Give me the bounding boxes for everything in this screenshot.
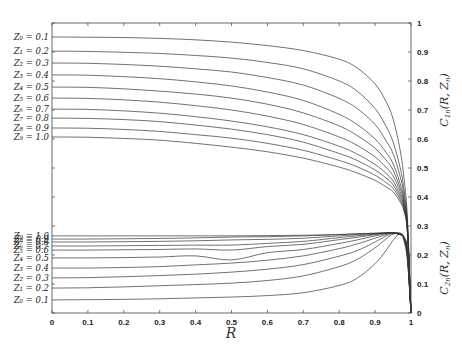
x-tick-label: 1 [409, 318, 414, 327]
z-label-upper-1: Z₁ = 0.2 [13, 46, 49, 56]
x-tick-label: 0.8 [334, 318, 346, 327]
c1n-curve-z6 [52, 109, 411, 313]
y-tick-label: 0.9 [417, 48, 429, 57]
c2n-sub: 2n [444, 277, 452, 287]
c1n-curve-z0 [52, 37, 411, 313]
chart-canvas: 00.10.20.30.40.50.60.70.80.91 00.10.20.3… [0, 0, 462, 351]
c1n-args: (R, Z [438, 82, 451, 110]
x-tick-label: 0.2 [118, 318, 130, 327]
z-label-upper-4: Z₄ = 0.5 [13, 82, 49, 92]
upper-curves-c1n [52, 37, 411, 313]
y-axis-label-upper: C1n(R, Zn) [438, 73, 452, 126]
c1n-curve-z8 [52, 128, 411, 313]
x-axis-label: R [225, 325, 237, 341]
y-axis-label-lower: C2n(R, Zn) [438, 241, 452, 294]
z-label-lower-1: Z₁ = 0.2 [13, 283, 49, 293]
z-label-upper-9: Z₉ = 1.0 [13, 132, 50, 142]
z-label-upper-2: Z₂ = 0.3 [13, 58, 49, 68]
svg-text:C1n(R, Zn): C1n(R, Zn) [438, 73, 452, 126]
z-label-upper-5: Z₅ = 0.6 [13, 93, 50, 103]
z-label-lower-9: Z₉ = 1.0 [13, 231, 50, 241]
lower-z-labels: Z₀ = 0.1Z₁ = 0.2Z₂ = 0.3Z₃ = 0.4Z₄ = 0.5… [13, 231, 50, 305]
c1n-curve-z9 [52, 137, 411, 313]
z-label-upper-3: Z₃ = 0.4 [13, 70, 49, 80]
z-label-upper-7: Z₇ = 0.8 [13, 113, 50, 123]
x-tick-label: 0.7 [298, 318, 310, 327]
upper-z-labels: Z₀ = 0.1Z₁ = 0.2Z₂ = 0.3Z₃ = 0.4Z₄ = 0.5… [13, 32, 50, 142]
x-tick-label: 0.9 [370, 318, 382, 327]
y-tick-label: 0.3 [417, 222, 429, 231]
y-tick-label: 0.8 [417, 77, 429, 86]
x-axis-ticks: 00.10.20.30.40.50.60.70.80.91 [50, 23, 414, 327]
x-tick-label: 0.6 [262, 318, 274, 327]
c2n-curve-z6 [52, 233, 411, 313]
y-tick-label: 0.6 [417, 135, 429, 144]
x-tick-label: 0.1 [82, 318, 94, 327]
y-tick-label: 0.1 [417, 280, 429, 289]
c1n-curve-z5 [52, 98, 411, 313]
y-tick-label: 0.5 [417, 164, 429, 173]
plot-frame [52, 23, 411, 313]
x-tick-label: 0 [50, 318, 55, 327]
z-label-lower-2: Z₂ = 0.3 [13, 273, 49, 283]
x-tick-label: 0.3 [154, 318, 166, 327]
y-tick-label: 0.2 [417, 251, 429, 260]
z-label-lower-3: Z₃ = 0.4 [13, 263, 49, 273]
z-label-upper-0: Z₀ = 0.1 [13, 32, 49, 42]
z-label-lower-0: Z₀ = 0.1 [13, 295, 49, 305]
c1n-curve-z1 [52, 51, 411, 313]
c2n-args: (R, Z [438, 250, 451, 278]
svg-text:C2n(R, Zn): C2n(R, Zn) [438, 241, 452, 294]
x-tick-label: 0.4 [190, 318, 202, 327]
y-tick-label: 1 [417, 19, 422, 28]
y-tick-label: 0.4 [417, 193, 429, 202]
y-tick-label: 0 [417, 309, 422, 318]
lower-curves-c2n [52, 233, 411, 313]
c1n-curve-z2 [52, 63, 411, 313]
y-tick-label: 0.7 [417, 106, 429, 115]
